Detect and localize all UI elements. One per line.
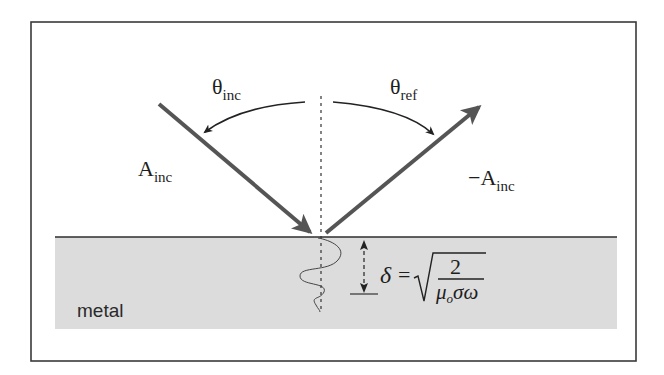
reflection-diagram: θinc θref Ainc −Ainc δ = 2 μoσω metal (0, 0, 664, 375)
formula-equals: = (398, 262, 410, 287)
diagram-canvas: θinc θref Ainc −Ainc δ = 2 μoσω metal (0, 0, 664, 375)
formula-delta: δ (380, 262, 392, 288)
metal-region (55, 237, 617, 329)
formula-numerator: 2 (450, 254, 461, 279)
metal-label: metal (77, 300, 123, 321)
formula-denominator: μoσω (435, 280, 478, 306)
